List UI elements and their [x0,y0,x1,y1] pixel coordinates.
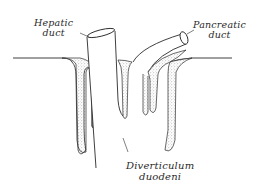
pancreatic-label-line2: duct [193,30,246,40]
hepatic-label-line2: duct [34,28,73,38]
hepatic-duct [87,27,123,168]
anatomical-figure: Hepatic duct Pancreatic duct Diverticulu… [0,0,260,188]
pancreatic-duct-label: Pancreatic duct [193,20,246,40]
diverticulum-label: Diverticulum duodeni [126,160,194,182]
diverticulum-label-line2: duodeni [126,171,194,182]
diverticulum-label-line1: Diverticulum [126,160,194,171]
right-submucosa [143,50,192,151]
hepatic-duct-label: Hepatic duct [34,18,73,38]
